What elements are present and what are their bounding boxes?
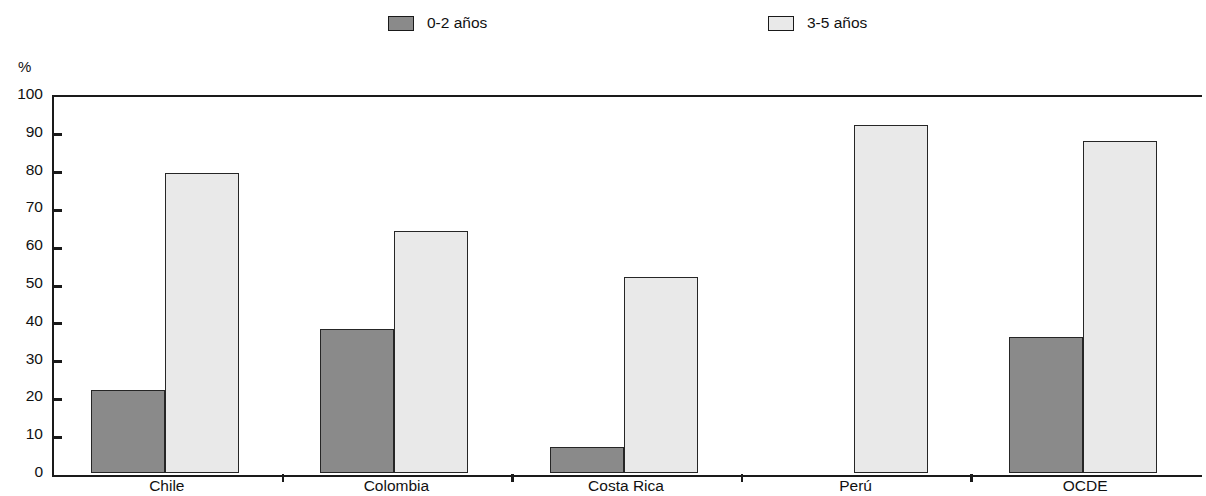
bar-colombia-series-1 [394, 231, 468, 473]
y-axis-tick-label: 40 [26, 313, 43, 329]
x-axis-label-chile: Chile [149, 478, 184, 494]
bar-chile-series-1 [165, 173, 239, 474]
y-axis-tick-label: 90 [26, 124, 43, 140]
bar-costa-rica-series-1 [624, 277, 698, 473]
bar-chart: 0-2 años 3-5 años % 01020304050607080901… [0, 0, 1206, 496]
bars-layer [52, 95, 1200, 473]
x-axis-separator-tick [282, 474, 284, 482]
legend-label-series-0: 0-2 años [427, 15, 487, 31]
y-axis-tick-label: 80 [26, 162, 43, 178]
legend-item-3-5-anos: 3-5 años [768, 13, 867, 33]
y-axis-tick-label: 100 [17, 86, 43, 102]
y-axis-tick-label: 30 [26, 351, 43, 367]
x-axis-label-perú: Perú [839, 478, 872, 494]
chart-legend: 0-2 años 3-5 años [0, 0, 1206, 46]
x-axis-label-costa-rica: Costa Rica [588, 478, 664, 494]
bar-ocde-series-1 [1083, 141, 1157, 473]
x-axis-separator-tick [511, 474, 513, 482]
y-axis-tick-label: 60 [26, 237, 43, 253]
bar-colombia-series-0 [320, 329, 394, 473]
bar-chile-series-0 [91, 390, 165, 473]
bar-perú-series-1 [854, 125, 928, 473]
x-axis-separator-tick [970, 474, 972, 482]
legend-label-series-1: 3-5 años [807, 15, 867, 31]
x-axis-label-ocde: OCDE [1063, 478, 1108, 494]
y-axis-tick-label: 70 [26, 199, 43, 215]
y-axis-unit-label: % [18, 58, 31, 75]
y-axis-tick-label: 0 [34, 464, 43, 480]
legend-item-0-2-anos: 0-2 años [388, 13, 487, 33]
y-axis-tick-label: 20 [26, 388, 43, 404]
bar-costa-rica-series-0 [550, 447, 624, 473]
x-axis-label-colombia: Colombia [364, 478, 429, 494]
y-axis-tick-label: 10 [26, 426, 43, 442]
bar-ocde-series-0 [1009, 337, 1083, 473]
legend-swatch-icon-series-1 [768, 16, 794, 31]
legend-swatch-icon-series-0 [388, 16, 414, 31]
y-axis-tick-label: 50 [26, 275, 43, 291]
x-axis-separator-tick [741, 474, 743, 482]
